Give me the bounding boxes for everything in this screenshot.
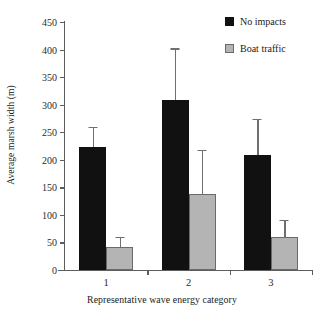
y-axis-title-text: Average marsh width (m): [6, 85, 16, 184]
y-axis-tick-mark: [60, 22, 65, 23]
y-axis-tick-label: 50: [47, 237, 57, 248]
x-axis-title-text: Representative wave energy category: [87, 294, 237, 305]
error-bar-line: [93, 128, 94, 147]
x-axis-tick-mark: [230, 270, 231, 275]
x-axis-tick-mark: [312, 270, 313, 275]
y-axis-tick-label: 0: [52, 265, 57, 276]
y-axis-tick-mark: [60, 132, 65, 133]
y-axis-tick-label: 150: [42, 182, 57, 193]
x-axis-tick-label: 2: [186, 277, 191, 288]
bar-chart-figure: Average marsh width (m) 0501001502002503…: [0, 0, 324, 322]
legend-item-no-impacts: No impacts: [225, 16, 286, 27]
y-axis-tick-label: 100: [42, 209, 57, 220]
bar-boat-traffic-cat-2: [189, 194, 216, 270]
error-bar-line: [202, 151, 203, 194]
legend-item-boat-traffic: Boat traffic: [225, 43, 286, 54]
legend-label-boat-traffic: Boat traffic: [240, 43, 286, 54]
y-axis-tick-label: 400: [42, 44, 57, 55]
x-axis-tick-mark: [147, 270, 148, 275]
y-axis-tick-mark: [60, 77, 65, 78]
y-axis-tick-mark: [60, 242, 65, 243]
error-bar-line: [284, 221, 285, 237]
error-bar-line: [120, 238, 121, 247]
error-bar-cap: [115, 237, 124, 238]
y-axis-tick-mark: [60, 160, 65, 161]
error-bar-cap: [280, 220, 289, 221]
bar-boat-traffic-cat-3: [271, 237, 298, 270]
error-bar-line: [257, 120, 258, 155]
error-bar-cap: [198, 150, 207, 151]
y-axis-tick-mark: [60, 50, 65, 51]
x-axis-tick-label: 3: [268, 277, 273, 288]
y-axis-tick-label: 300: [42, 99, 57, 110]
y-axis-tick-mark: [60, 270, 65, 271]
bar-boat-traffic-cat-1: [106, 247, 133, 270]
error-bar-cap: [88, 127, 97, 128]
y-axis-title: Average marsh width (m): [0, 0, 22, 270]
y-axis-tick-label: 350: [42, 72, 57, 83]
y-axis-tick-mark: [60, 187, 65, 188]
x-axis-tick-label: 1: [104, 277, 109, 288]
x-axis-title: Representative wave energy category: [0, 294, 324, 305]
bar-no-impacts-cat-1: [79, 147, 106, 270]
error-bar-cap: [253, 119, 262, 120]
y-axis-tick-label: 250: [42, 127, 57, 138]
y-axis-tick-mark: [60, 105, 65, 106]
y-axis-tick-label: 450: [42, 17, 57, 28]
legend-swatch-no-impacts: [225, 17, 234, 26]
y-axis-tick-label: 200: [42, 154, 57, 165]
bar-no-impacts-cat-2: [162, 100, 189, 270]
error-bar-line: [175, 50, 176, 101]
error-bar-cap: [171, 48, 180, 49]
y-axis-tick-mark: [60, 215, 65, 216]
legend-label-no-impacts: No impacts: [240, 16, 286, 27]
chart-legend: No impacts Boat traffic: [225, 16, 286, 70]
legend-swatch-boat-traffic: [225, 44, 234, 53]
bar-no-impacts-cat-3: [244, 155, 271, 270]
